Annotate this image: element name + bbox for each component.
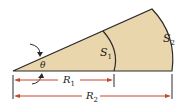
r2-arrowhead-left (14, 94, 20, 98)
r1-arrowhead-left (14, 78, 20, 82)
r1-arrowhead-right (107, 78, 113, 82)
angle-arrowhead-bottom (38, 73, 44, 78)
angle-arrowhead-top (37, 52, 43, 57)
sector-shape (13, 9, 173, 71)
r2-label: R2 (85, 90, 98, 104)
r1-label: R1 (62, 74, 75, 88)
r2-arrowhead-right (165, 94, 171, 98)
outer-arc-label: S2 (163, 32, 175, 47)
angle-label: θ (40, 60, 46, 70)
sector-diagram: θ S1 S2 R1 R2 (0, 0, 187, 109)
